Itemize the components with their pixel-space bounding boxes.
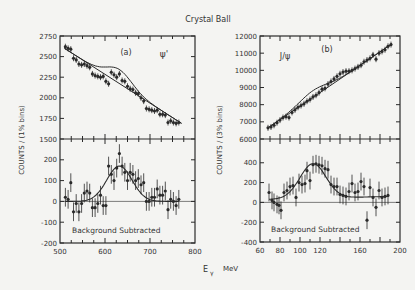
x-tick-label: 200 — [393, 247, 406, 255]
data-point — [317, 91, 320, 94]
data-point — [329, 80, 332, 83]
chart-figure: Crystal Ball 150017502000225025002750 -2… — [0, 0, 415, 290]
data-point — [272, 124, 275, 127]
panel-a-annotation: Background Subtracted — [72, 226, 161, 235]
data-point — [67, 47, 70, 50]
x-tick-label: 120 — [313, 247, 326, 255]
data-point — [137, 92, 140, 95]
data-point — [338, 72, 341, 75]
data-point — [347, 70, 350, 73]
data-point — [281, 116, 284, 119]
data-point — [172, 200, 175, 203]
data-point — [377, 189, 380, 192]
data-point — [296, 106, 299, 109]
data-point — [314, 162, 317, 165]
data-point — [308, 98, 311, 101]
data-point — [297, 181, 300, 184]
data-point — [175, 122, 178, 125]
data-point — [161, 194, 164, 197]
data-point — [332, 77, 335, 80]
data-point — [164, 189, 167, 192]
data-point — [110, 71, 113, 74]
data-point — [91, 72, 94, 75]
data-point — [121, 164, 124, 167]
data-point — [344, 70, 347, 73]
data-point — [305, 169, 308, 172]
data-point — [269, 125, 272, 128]
x-tick-label: 100 — [293, 247, 306, 255]
x-tick-label: 500 — [53, 248, 66, 256]
data-point — [368, 57, 371, 60]
data-point — [314, 94, 317, 97]
data-point — [169, 198, 172, 201]
data-point — [64, 45, 67, 48]
data-point — [134, 179, 137, 182]
data-point — [353, 67, 356, 70]
panel-a-top-ticks: 150017502000225025002750 — [39, 33, 195, 144]
data-point — [284, 115, 287, 118]
data-point — [311, 163, 314, 166]
data-point — [266, 126, 269, 129]
data-point — [326, 168, 329, 171]
data-point — [338, 193, 341, 196]
y-tick-label: 1750 — [39, 115, 57, 123]
data-point — [96, 75, 99, 78]
panel-a-particle-label: ψ' — [160, 49, 168, 59]
data-point — [69, 181, 72, 184]
data-point — [72, 210, 75, 213]
y-tick-label: 2250 — [39, 74, 57, 82]
data-point — [356, 190, 359, 193]
data-point — [300, 183, 303, 186]
panel-b-bottom-plot — [260, 155, 400, 229]
data-point — [75, 58, 78, 61]
x-axis-label: E γ MeV — [203, 265, 238, 277]
data-point — [323, 167, 326, 170]
data-point — [317, 163, 320, 166]
data-point — [148, 200, 151, 203]
data-point — [131, 173, 134, 176]
data-point — [320, 88, 323, 91]
data-point — [347, 190, 350, 193]
x-tick-label: 160 — [353, 247, 366, 255]
data-point — [139, 96, 142, 99]
y-tick-label: 8000 — [239, 101, 257, 109]
data-point — [80, 202, 83, 205]
y-tick-label: 6000 — [239, 136, 257, 144]
data-point — [153, 196, 156, 199]
data-point — [344, 195, 347, 198]
data-point — [380, 50, 383, 53]
data-point — [374, 58, 377, 61]
data-point — [285, 189, 288, 192]
panel-b-ylabel: COUNTS / (3% bins) — [216, 105, 224, 175]
data-point — [161, 113, 164, 116]
data-point — [156, 109, 159, 112]
data-point — [267, 191, 270, 194]
data-point — [129, 171, 132, 174]
data-point — [129, 87, 132, 90]
data-point — [123, 80, 126, 83]
data-point — [308, 179, 311, 182]
data-point — [303, 182, 306, 185]
data-point — [142, 99, 145, 102]
data-point — [359, 64, 362, 67]
data-point — [293, 108, 296, 111]
data-point — [365, 219, 368, 222]
data-point — [287, 116, 290, 119]
data-point — [341, 70, 344, 73]
data-point — [77, 62, 80, 65]
data-point — [329, 183, 332, 186]
data-point — [83, 191, 86, 194]
data-point — [126, 179, 129, 182]
data-point — [290, 111, 293, 114]
data-point — [377, 52, 380, 55]
data-point — [389, 43, 392, 46]
data-point — [110, 173, 113, 176]
data-point — [69, 48, 72, 51]
data-point — [288, 185, 291, 188]
data-point — [80, 63, 83, 66]
panel-a: 150017502000225025002750 -200-1000100200… — [18, 33, 202, 257]
data-point — [311, 95, 314, 98]
data-point — [166, 208, 169, 211]
data-point — [104, 80, 107, 83]
data-point — [341, 194, 344, 197]
